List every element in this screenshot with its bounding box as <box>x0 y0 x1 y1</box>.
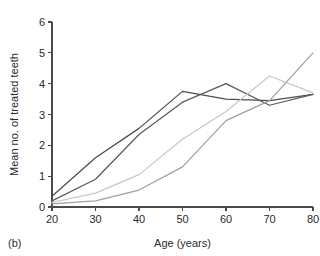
y-tick-label: 4 <box>39 78 45 90</box>
x-axis-title: Age (years) <box>154 237 211 249</box>
x-tick-label: 20 <box>46 213 58 225</box>
chart-series-lines <box>52 53 313 204</box>
chart-line-series-2 <box>52 84 313 201</box>
y-axis-tick-labels: 0123456 <box>39 16 45 213</box>
y-tick-label: 3 <box>39 109 45 121</box>
y-axis-title: Mean no. of treated teeth <box>8 53 20 176</box>
figure-panel: 0123456 20304050607080 Mean no. of treat… <box>0 0 320 256</box>
x-tick-label: 70 <box>263 213 275 225</box>
x-tick-label: 50 <box>176 213 188 225</box>
y-tick-label: 1 <box>39 170 45 182</box>
chart-line-series-1 <box>52 91 313 196</box>
x-axis-tick-labels: 20304050607080 <box>46 213 319 225</box>
x-tick-label: 80 <box>307 213 319 225</box>
x-tick-label: 40 <box>133 213 145 225</box>
y-tick-label: 2 <box>39 139 45 151</box>
x-tick-label: 60 <box>220 213 232 225</box>
chart-axes <box>52 22 313 207</box>
x-tick-label: 30 <box>89 213 101 225</box>
line-chart: 0123456 20304050607080 Mean no. of treat… <box>0 0 320 256</box>
y-tick-label: 6 <box>39 16 45 28</box>
y-tick-label: 0 <box>39 201 45 213</box>
y-tick-label: 5 <box>39 47 45 59</box>
panel-label: (b) <box>8 237 21 249</box>
